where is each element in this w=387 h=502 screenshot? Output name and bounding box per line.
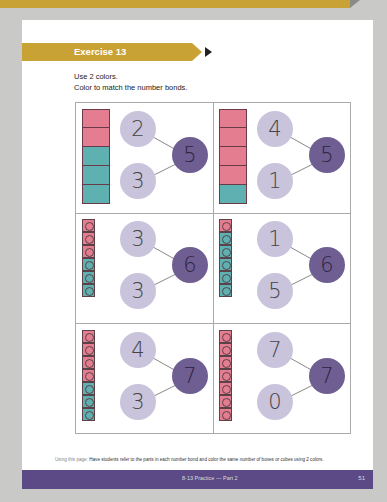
color-box[interactable] [82, 147, 110, 166]
top-banner [0, 0, 350, 8]
cube[interactable] [82, 330, 95, 343]
note-label: Using this page: [55, 457, 88, 462]
color-box[interactable] [219, 109, 247, 128]
color-box[interactable] [82, 166, 110, 185]
instruction-line-1: Use 2 colors. [74, 72, 118, 81]
part-circle-top: 2 [120, 111, 156, 147]
whole-circle: 6 [172, 247, 208, 283]
cube[interactable] [219, 343, 232, 356]
number-bond-grid: 235415336156437707 [75, 102, 351, 434]
cube[interactable] [219, 258, 232, 271]
cube-train[interactable] [219, 330, 232, 421]
color-boxes[interactable] [219, 109, 247, 204]
arrow-icon [205, 47, 212, 57]
color-box[interactable] [219, 166, 247, 185]
cube[interactable] [219, 382, 232, 395]
part-circle-bottom: 3 [120, 273, 156, 309]
cube[interactable] [82, 271, 95, 284]
cube[interactable] [82, 232, 95, 245]
part-circle-top: 4 [257, 111, 293, 147]
number-bond-cell: 336 [76, 213, 214, 324]
cube[interactable] [82, 369, 95, 382]
cube-train[interactable] [82, 219, 95, 297]
part-circle-bottom: 3 [120, 163, 156, 199]
part-circle-top: 4 [120, 332, 156, 368]
part-circle-bottom: 1 [257, 163, 293, 199]
color-boxes[interactable] [82, 109, 110, 204]
cube[interactable] [82, 343, 95, 356]
workbook-page: Exercise 13 Use 2 colors. Color to match… [22, 20, 373, 472]
cube[interactable] [82, 245, 95, 258]
cube[interactable] [219, 356, 232, 369]
color-box[interactable] [82, 185, 110, 204]
color-box[interactable] [219, 185, 247, 204]
footer-title: 8-13 Practice — Part 2 [182, 475, 238, 481]
cube[interactable] [82, 219, 95, 232]
cube[interactable] [82, 258, 95, 271]
cube[interactable] [82, 408, 95, 421]
part-circle-top: 3 [120, 221, 156, 257]
cube[interactable] [219, 330, 232, 343]
whole-circle: 5 [309, 137, 345, 173]
cube[interactable] [219, 271, 232, 284]
number-bond-cell: 156 [213, 213, 351, 324]
cube-train[interactable] [219, 219, 232, 297]
color-box[interactable] [82, 128, 110, 147]
part-circle-bottom: 3 [120, 384, 156, 420]
cube[interactable] [219, 219, 232, 232]
cube[interactable] [82, 284, 95, 297]
part-circle-top: 7 [257, 332, 293, 368]
color-box[interactable] [219, 128, 247, 147]
cube[interactable] [82, 382, 95, 395]
number-bond-cell: 415 [213, 103, 351, 214]
whole-circle: 7 [309, 358, 345, 394]
cube[interactable] [219, 395, 232, 408]
whole-circle: 5 [172, 137, 208, 173]
part-circle-bottom: 5 [257, 273, 293, 309]
cube[interactable] [82, 356, 95, 369]
teacher-note: Using this page: Have students refer to … [55, 457, 345, 463]
number-bond-cell: 235 [76, 103, 214, 214]
number-bond-cell: 707 [213, 324, 351, 434]
page-footer: 8-13 Practice — Part 2 51 [22, 470, 373, 489]
cube[interactable] [219, 369, 232, 382]
cube[interactable] [219, 245, 232, 258]
page-number: 51 [358, 475, 365, 481]
number-bond-cell: 437 [76, 324, 214, 434]
cube[interactable] [219, 232, 232, 245]
exercise-title: Exercise 13 [74, 46, 126, 57]
whole-circle: 7 [172, 358, 208, 394]
part-circle-bottom: 0 [257, 384, 293, 420]
cube[interactable] [219, 284, 232, 297]
whole-circle: 6 [309, 247, 345, 283]
cube[interactable] [82, 395, 95, 408]
cube-train[interactable] [82, 330, 95, 421]
instruction-line-2: Color to match the number bonds. [74, 83, 187, 92]
note-text: Have students refer to the parts in each… [89, 457, 323, 462]
color-box[interactable] [219, 147, 247, 166]
part-circle-top: 1 [257, 221, 293, 257]
color-box[interactable] [82, 109, 110, 128]
cube[interactable] [219, 408, 232, 421]
